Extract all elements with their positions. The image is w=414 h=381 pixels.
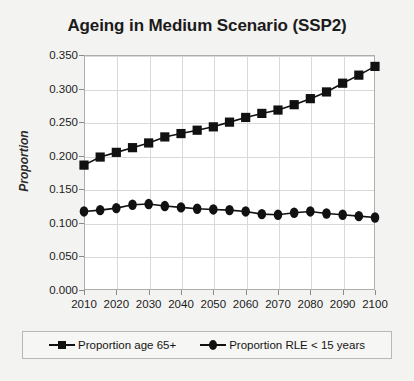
- legend-label: Proportion RLE < 15 years: [229, 339, 365, 351]
- data-point-square: [354, 71, 363, 80]
- data-point-circle: [290, 208, 299, 218]
- data-point-circle: [128, 200, 137, 210]
- chart-container: Ageing in Medium Scenario (SSP2) Proport…: [0, 0, 414, 381]
- y-tick-label: 0.350: [20, 49, 78, 61]
- data-point-square: [128, 143, 137, 152]
- x-tick-mark: [149, 290, 150, 295]
- y-tick-label: 0.300: [20, 83, 78, 95]
- y-tick-label: 0.250: [20, 116, 78, 128]
- data-point-circle: [96, 205, 105, 215]
- data-point-square: [338, 79, 347, 88]
- x-tick-mark: [375, 290, 376, 295]
- x-tick-mark: [116, 290, 117, 295]
- x-tick-mark: [246, 290, 247, 295]
- data-point-square: [112, 148, 121, 157]
- square-marker-icon: [49, 339, 75, 351]
- data-point-circle: [258, 209, 267, 219]
- data-point-square: [96, 152, 105, 161]
- x-axis-ticks: 2010202020302040205020602070208020902100: [0, 290, 414, 320]
- data-point-circle: [322, 208, 331, 218]
- data-point-circle: [241, 206, 250, 216]
- circle-marker-icon: [200, 339, 226, 351]
- data-point-circle: [338, 210, 347, 220]
- y-tick-label: 0.050: [20, 250, 78, 262]
- plot-wrapper: [84, 55, 375, 290]
- data-point-square: [306, 94, 315, 103]
- data-point-square: [322, 87, 331, 96]
- data-point-circle: [371, 212, 380, 222]
- x-tick-mark: [310, 290, 311, 295]
- data-point-circle: [355, 211, 364, 221]
- series-line: [84, 66, 375, 165]
- chart-title: Ageing in Medium Scenario (SSP2): [0, 16, 414, 36]
- series-age-65-plus: [79, 62, 379, 170]
- chart-legend: Proportion age 65+ Proportion RLE < 15 y…: [22, 331, 392, 359]
- data-point-square: [273, 105, 282, 114]
- y-tick-label: 0.150: [20, 183, 78, 195]
- data-point-circle: [274, 210, 283, 220]
- data-point-square: [209, 122, 218, 131]
- data-point-square: [241, 113, 250, 122]
- data-point-circle: [225, 205, 234, 215]
- data-point-circle: [306, 206, 315, 216]
- x-tick-mark: [213, 290, 214, 295]
- data-point-square: [79, 161, 88, 170]
- data-point-square: [144, 138, 153, 147]
- x-tick-mark: [343, 290, 344, 295]
- legend-label: Proportion age 65+: [78, 339, 176, 351]
- y-tick-label: 0.100: [20, 217, 78, 229]
- data-point-circle: [209, 204, 218, 214]
- data-point-circle: [161, 201, 170, 211]
- data-point-square: [257, 109, 266, 118]
- data-point-square: [193, 126, 202, 135]
- data-point-square: [370, 62, 379, 71]
- data-point-square: [176, 129, 185, 138]
- data-point-square: [160, 132, 169, 141]
- data-point-square: [290, 100, 299, 109]
- legend-item-rle-under-15[interactable]: Proportion RLE < 15 years: [200, 339, 365, 351]
- x-tick-mark: [278, 290, 279, 295]
- data-point-circle: [177, 202, 186, 212]
- series-rle-under-15: [80, 199, 380, 223]
- data-point-circle: [193, 204, 202, 214]
- data-point-square: [225, 118, 234, 127]
- x-tick-mark: [181, 290, 182, 295]
- x-tick-label: 2100: [353, 298, 397, 310]
- y-tick-label: 0.200: [20, 150, 78, 162]
- legend-item-age-65-plus[interactable]: Proportion age 65+: [49, 339, 176, 351]
- series-layer: [84, 55, 375, 290]
- data-point-circle: [144, 199, 153, 209]
- data-point-circle: [80, 206, 89, 216]
- data-point-circle: [112, 203, 121, 213]
- x-tick-mark: [84, 290, 85, 295]
